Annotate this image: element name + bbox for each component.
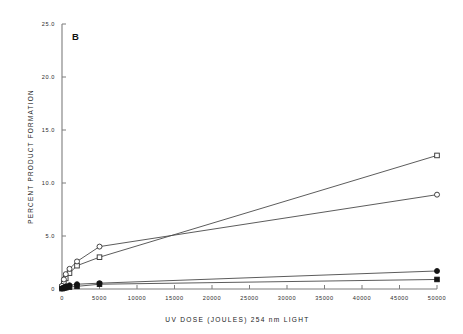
data-point-series-4-filled-square [67, 285, 72, 290]
y-tick-label: 0 [51, 286, 55, 292]
data-point-series-2-open-circle [63, 272, 68, 277]
axis-titles-group: UV DOSE (JOULES) 254 nm LIGHTPERCENT PRO… [27, 31, 310, 324]
x-tick-label: 10000 [128, 295, 147, 301]
panel-label: B [72, 31, 79, 42]
data-point-series-4-filled-square [75, 284, 80, 289]
data-point-series-2-open-circle [435, 192, 440, 197]
data-point-series-3-filled-circle [435, 268, 440, 273]
x-tick-label: 0 [60, 295, 64, 301]
x-tick-label: 20000 [203, 295, 222, 301]
x-tick-labels-group: 0500010000150002000025000300003500040000… [60, 295, 446, 301]
axes-group [62, 24, 437, 289]
x-tick-label: 50000 [428, 295, 447, 301]
x-tick-label: 15000 [165, 295, 184, 301]
tick-marks-group [62, 24, 437, 289]
data-point-series-1-open-square [435, 153, 440, 158]
data-point-series-2-open-circle [75, 259, 80, 264]
series-line-series-2-open-circle [62, 195, 437, 286]
chart-canvas: 0500010000150002000025000300003500040000… [0, 0, 463, 334]
data-point-series-4-filled-square [97, 282, 102, 287]
x-tick-label: 45000 [390, 295, 409, 301]
y-tick-label: 10.0 [42, 180, 55, 186]
data-point-series-2-open-circle [67, 266, 72, 271]
x-tick-label: 25000 [240, 295, 259, 301]
x-tick-label: 35000 [315, 295, 334, 301]
y-tick-label: 5.0 [45, 233, 55, 239]
chart-figure: 0500010000150002000025000300003500040000… [0, 0, 463, 334]
x-tick-label: 40000 [353, 295, 372, 301]
data-point-series-2-open-circle [97, 244, 102, 249]
y-tick-label: 25.0 [42, 21, 55, 27]
data-point-series-1-open-square [97, 255, 102, 260]
data-point-series-2-open-circle [61, 277, 66, 282]
x-tick-label: 5000 [92, 295, 107, 301]
series-line-series-1-open-square [62, 155, 437, 286]
data-markers-group [60, 153, 440, 291]
x-tick-label: 30000 [278, 295, 297, 301]
y-tick-label: 15.0 [42, 127, 55, 133]
x-axis-title: UV DOSE (JOULES) 254 nm LIGHT [165, 316, 309, 324]
y-axis-title: PERCENT PRODUCT FORMATION [27, 89, 34, 224]
y-tick-label: 20.0 [42, 74, 55, 80]
data-series-group [62, 155, 437, 288]
data-point-series-4-filled-square [435, 277, 440, 282]
y-tick-labels-group: 05.010.015.020.025.0 [42, 21, 55, 292]
